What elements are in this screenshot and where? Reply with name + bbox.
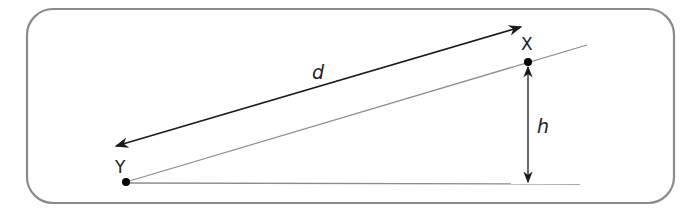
label-y: Y (114, 157, 126, 177)
label-d: d (312, 61, 325, 83)
incline-line (126, 45, 587, 182)
inclined-plane-diagram: d X Y h (0, 0, 699, 216)
label-h: h (537, 115, 549, 137)
distance-arrow-d (116, 27, 521, 146)
label-x: X (521, 34, 533, 54)
point-y (122, 178, 130, 186)
baseline (126, 183, 580, 184)
point-x (524, 58, 532, 66)
